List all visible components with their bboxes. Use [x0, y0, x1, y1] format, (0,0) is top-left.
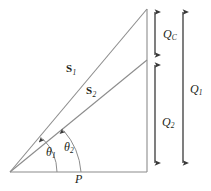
label-q1: Q1: [190, 83, 202, 95]
label-qc: QC: [163, 28, 177, 40]
power-triangle-figure: S1 S2 θ1 θ2 P QC Q2 Q1: [0, 0, 211, 191]
label-qc-base: Q: [163, 27, 172, 41]
label-theta1: θ1: [46, 146, 56, 158]
label-q2: Q2: [162, 116, 174, 128]
label-q1-subscript: 1: [199, 88, 203, 97]
label-theta2: θ2: [64, 141, 74, 153]
label-q2-subscript: 2: [171, 121, 175, 130]
label-theta1-subscript: 1: [52, 151, 56, 160]
vector-s2-line: [10, 60, 147, 172]
vector-s1-line: [10, 9, 147, 172]
label-q2-base: Q: [162, 115, 171, 129]
label-s2-subscript: 2: [92, 90, 96, 99]
label-s1-subscript: 1: [72, 68, 76, 77]
label-p: P: [75, 173, 82, 185]
label-p-base: P: [75, 172, 82, 186]
label-qc-subscript: C: [172, 33, 177, 42]
label-s1: S1: [66, 63, 76, 74]
label-s2: S2: [86, 85, 96, 96]
diagram-canvas: [0, 0, 211, 191]
label-theta2-subscript: 2: [70, 146, 74, 155]
label-q1-base: Q: [190, 82, 199, 96]
